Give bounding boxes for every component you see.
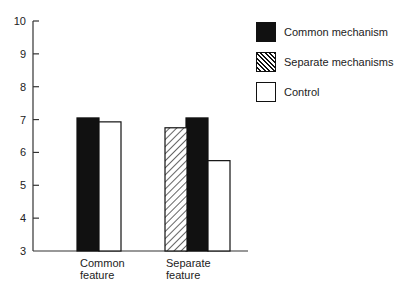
swatch-hatched [256,52,276,72]
y-tick-label: 7 [20,114,26,126]
bar-common-mechanism [77,118,99,251]
bar-common-mechanism [186,118,208,251]
bars [77,118,230,251]
y-tick-label: 4 [20,212,26,224]
y-tick-label: 8 [20,81,26,93]
category-label: feature [166,269,200,281]
bar-control [99,122,121,251]
legend-item-separate-mechanisms: Separate mechanisms [256,47,393,77]
swatch-white [256,82,276,102]
legend: Common mechanism Separate mechanisms Con… [256,17,393,107]
legend-label: Common mechanism [284,26,388,38]
bar-control [208,161,230,251]
legend-item-common-mechanism: Common mechanism [256,17,393,47]
category-label: feature [80,269,114,281]
y-tick-label: 6 [20,146,26,158]
y-tick-label: 5 [20,179,26,191]
category-label: Common [80,257,125,269]
y-tick-label: 10 [14,15,26,27]
category-label: Separate [166,257,211,269]
legend-label: Control [284,86,319,98]
legend-label: Separate mechanisms [284,56,393,68]
swatch-solid-black [256,22,276,42]
y-tick-label: 3 [20,245,26,257]
legend-item-control: Control [256,77,393,107]
bar-separate-mechanisms [165,128,187,251]
y-tick-label: 9 [20,48,26,60]
x-axis-labels: CommonfeatureSeparatefeature [80,257,211,281]
